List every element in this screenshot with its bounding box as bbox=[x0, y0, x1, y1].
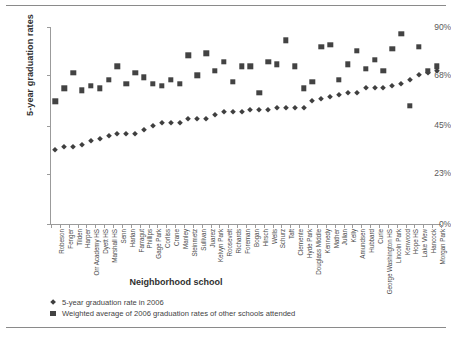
data-point-square bbox=[336, 77, 341, 82]
x-tick-mark bbox=[95, 225, 96, 228]
x-axis-label: Farragut bbox=[138, 229, 145, 252]
x-axis-label: Fenger bbox=[67, 229, 74, 249]
x-tick-mark bbox=[157, 225, 158, 228]
x-axis-label: Richards bbox=[235, 229, 242, 253]
x-axis-label: Kelvyn Park bbox=[217, 229, 224, 262]
data-point-diamond bbox=[203, 116, 209, 122]
data-point-square bbox=[372, 57, 377, 62]
data-point-diamond bbox=[301, 105, 307, 111]
x-axis-label: Manley bbox=[182, 229, 189, 249]
x-axis-label: Taft bbox=[288, 229, 295, 239]
data-point-square bbox=[115, 64, 120, 69]
x-axis-label: Crane bbox=[173, 229, 180, 246]
data-point-diamond bbox=[52, 146, 58, 152]
x-tick-mark bbox=[379, 225, 380, 228]
x-tick-mark bbox=[193, 225, 194, 228]
x-tick-mark bbox=[202, 225, 203, 228]
x-axis-label: Kenwood bbox=[404, 229, 411, 255]
data-point-diamond bbox=[283, 105, 289, 111]
data-point-square bbox=[141, 75, 146, 80]
x-tick-mark bbox=[246, 225, 247, 228]
y-axis-title: 5-year graduation rates bbox=[25, 0, 35, 155]
data-point-square bbox=[292, 64, 297, 69]
data-point-square bbox=[310, 79, 315, 84]
data-point-diamond bbox=[194, 116, 200, 122]
x-tick-mark bbox=[228, 225, 229, 228]
data-point-square bbox=[398, 31, 403, 36]
x-tick-mark bbox=[78, 225, 79, 228]
x-axis-label: Robeson bbox=[58, 229, 65, 254]
square-marker-icon bbox=[50, 311, 55, 316]
data-point-square bbox=[177, 81, 182, 86]
x-tick-mark bbox=[60, 225, 61, 228]
scatter-chart: 0%23%45%68%90% RobesonFengerTildenHarper… bbox=[0, 0, 451, 339]
x-axis-label: Senn bbox=[120, 229, 127, 244]
x-axis-label: Hubbard bbox=[368, 229, 375, 253]
x-tick-mark bbox=[255, 225, 256, 228]
data-point-diamond bbox=[70, 144, 76, 150]
x-axis-label: Marshall HS bbox=[111, 229, 118, 263]
x-tick-mark bbox=[51, 225, 52, 228]
data-point-square bbox=[53, 99, 58, 104]
data-point-square bbox=[221, 59, 226, 64]
x-tick-mark bbox=[397, 225, 398, 228]
data-point-square bbox=[363, 66, 368, 71]
legend-square-icon bbox=[47, 311, 59, 316]
x-tick-mark bbox=[211, 225, 212, 228]
x-axis-label: Wells bbox=[271, 229, 278, 244]
data-point-diamond bbox=[371, 85, 377, 91]
x-tick-mark bbox=[104, 225, 105, 228]
x-tick-mark bbox=[406, 225, 407, 228]
data-point-diamond bbox=[230, 109, 236, 115]
x-tick-mark bbox=[281, 225, 282, 228]
data-point-square bbox=[88, 83, 93, 88]
data-point-square bbox=[159, 83, 164, 88]
data-point-square bbox=[79, 88, 84, 93]
data-point-square bbox=[239, 64, 244, 69]
x-axis-label: Foreman bbox=[244, 229, 251, 254]
x-axis-label: Tilden bbox=[76, 229, 83, 246]
x-tick-mark bbox=[184, 225, 185, 228]
x-tick-mark bbox=[219, 225, 220, 228]
data-point-square bbox=[62, 86, 67, 91]
data-point-square bbox=[274, 62, 279, 67]
x-tick-mark bbox=[317, 225, 318, 228]
x-axis-label: Morgan Park bbox=[439, 229, 446, 265]
x-axis-label: Hancock bbox=[430, 229, 437, 253]
x-axis-title: Neighborhood school bbox=[51, 277, 301, 287]
data-point-diamond bbox=[176, 120, 182, 126]
data-point-diamond bbox=[79, 142, 85, 148]
data-point-square bbox=[257, 90, 262, 95]
data-point-diamond bbox=[97, 136, 103, 142]
x-tick-mark bbox=[166, 225, 167, 228]
data-point-diamond bbox=[354, 90, 360, 96]
data-point-square bbox=[248, 64, 253, 69]
x-tick-mark bbox=[414, 225, 415, 228]
x-axis-label: Lincoln Park bbox=[395, 229, 402, 263]
data-point-square bbox=[390, 46, 395, 51]
x-axis-label: Kelly bbox=[350, 229, 357, 242]
x-tick-mark bbox=[308, 225, 309, 228]
x-axis-label: Hope HS bbox=[412, 229, 419, 254]
x-axis-label: Phillips bbox=[146, 229, 153, 249]
data-point-diamond bbox=[309, 98, 315, 104]
x-axis-label: Bogan bbox=[253, 229, 260, 247]
x-axis-label: Roosevelt bbox=[226, 229, 233, 257]
data-point-diamond bbox=[114, 131, 120, 137]
data-point-diamond bbox=[318, 96, 324, 102]
x-tick-mark bbox=[290, 225, 291, 228]
data-point-square bbox=[434, 64, 439, 69]
x-axis-label: George Washington HS bbox=[386, 229, 393, 294]
x-axis-label: Harper bbox=[84, 229, 91, 248]
x-axis-label: Douglass Middle bbox=[315, 229, 322, 275]
legend-item-label: 5-year graduation rate in 2006 bbox=[59, 298, 164, 307]
data-point-diamond bbox=[141, 127, 147, 133]
data-point-diamond bbox=[123, 131, 129, 137]
data-point-diamond bbox=[274, 105, 280, 111]
data-point-diamond bbox=[247, 107, 253, 113]
data-point-square bbox=[345, 62, 350, 67]
legend-item-label: Weighted average of 2006 graduation rate… bbox=[59, 309, 295, 318]
legend-item: 5-year graduation rate in 2006 bbox=[47, 297, 295, 308]
data-point-square bbox=[212, 68, 217, 73]
data-point-diamond bbox=[88, 138, 94, 144]
